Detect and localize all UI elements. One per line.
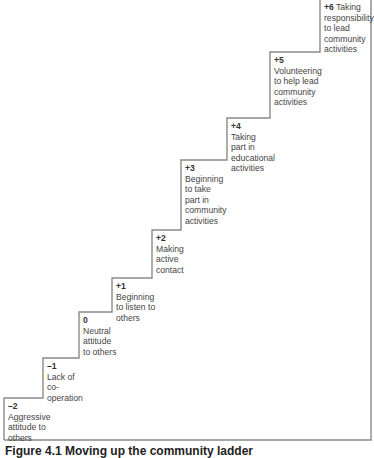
step-0: 0 Neutral attitude to others [83, 315, 116, 357]
step-level: –2 [8, 401, 18, 411]
step-level: –1 [47, 361, 57, 371]
step-level: +4 [231, 121, 241, 131]
step-level: +3 [185, 163, 195, 173]
step-plus-5: +5 Volunteering to help lead community a… [274, 55, 322, 108]
step-plus-3: +3 Beginning to take part in community a… [185, 163, 227, 227]
step-level: +1 [116, 281, 126, 291]
step-minus-2: –2 Aggressive attitude to others [8, 401, 51, 443]
step-plus-1: +1 Beginning to listen to others [116, 281, 155, 323]
figure-caption: Figure 4.1 Moving up the community ladde… [5, 444, 253, 458]
step-level: 0 [83, 315, 88, 325]
step-plus-4: +4 Taking part in educational activities [231, 121, 275, 174]
step-plus-6: +6 Taking responsibility to lead communi… [324, 2, 374, 55]
step-level: +2 [156, 233, 166, 243]
step-minus-1: –1 Lack of co- operation [47, 361, 83, 403]
step-level: +6 [324, 2, 334, 12]
step-plus-2: +2 Making active contact [156, 233, 184, 275]
step-level: +5 [274, 55, 284, 65]
